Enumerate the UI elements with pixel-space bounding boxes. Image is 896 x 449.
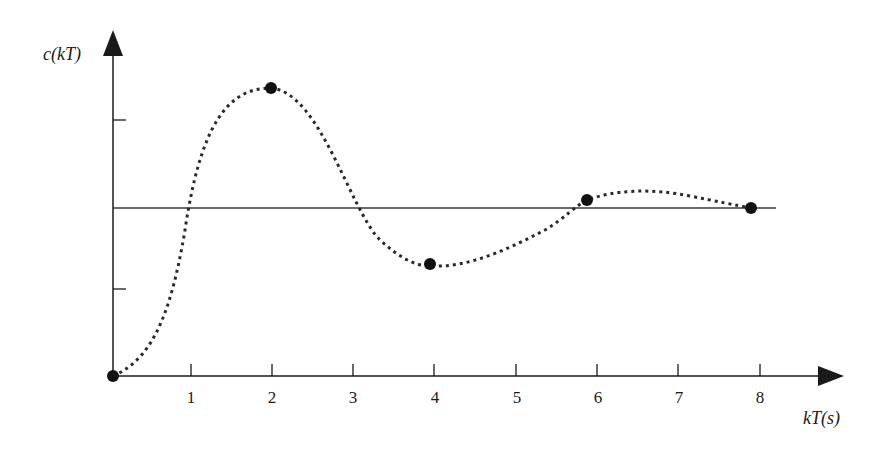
- data-point-4: [745, 202, 757, 214]
- x-tick-label-4: 4: [431, 388, 440, 407]
- data-point-2: [424, 258, 436, 270]
- x-tick-label-5: 5: [513, 388, 522, 407]
- response-curve: [113, 88, 751, 376]
- x-tick-label-2: 2: [268, 388, 277, 407]
- y-ticks: [113, 120, 126, 289]
- x-tick-label-3: 3: [349, 388, 358, 407]
- x-tick-label-1: 1: [187, 388, 196, 407]
- x-tick-label-8: 8: [756, 388, 765, 407]
- x-axis-label: kT(s): [803, 408, 840, 429]
- x-ticks: [191, 364, 760, 376]
- response-chart: 1 2 3 4 5 6 7 8 c(kT) kT(s): [0, 0, 896, 449]
- data-point-3: [581, 194, 593, 206]
- y-axis-label: c(kT): [43, 44, 81, 65]
- data-point-1: [265, 82, 277, 94]
- y-axis-arrow-icon: [103, 30, 123, 56]
- x-tick-labels: 1 2 3 4 5 6 7 8: [187, 388, 765, 407]
- sample-points: [107, 82, 757, 382]
- data-point-0: [107, 370, 119, 382]
- x-axis-arrow-icon: [818, 366, 844, 386]
- x-tick-label-6: 6: [594, 388, 603, 407]
- x-tick-label-7: 7: [675, 388, 684, 407]
